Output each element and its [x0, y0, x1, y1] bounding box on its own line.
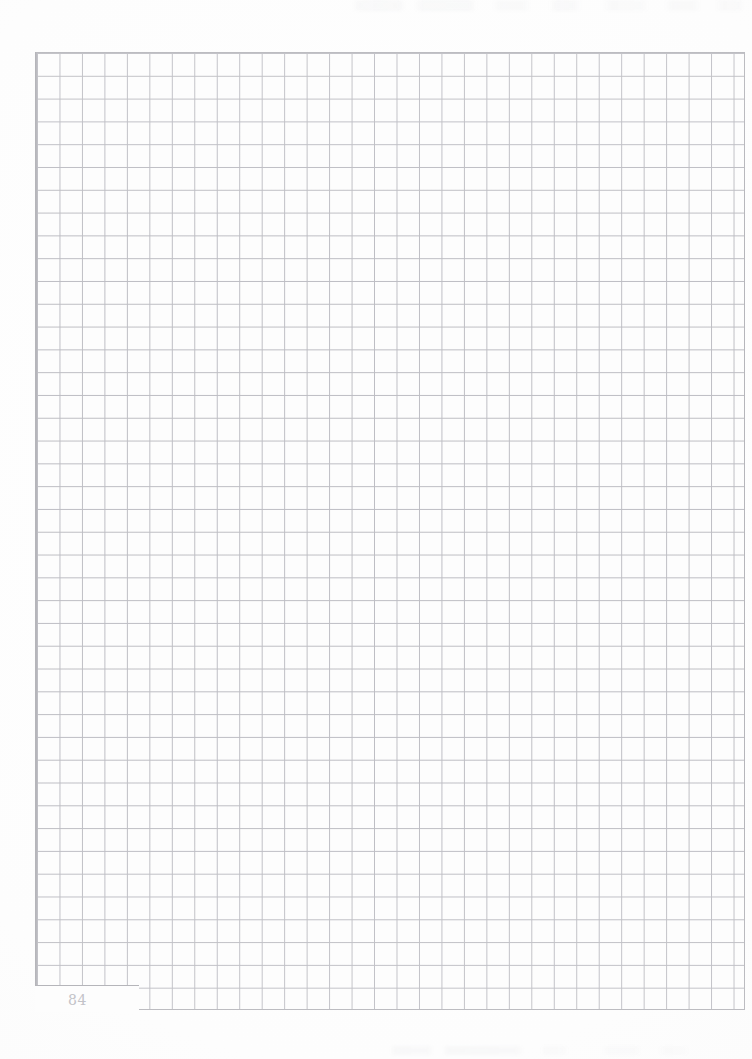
bottom-bleed-through-artifact — [390, 1046, 690, 1055]
graph-paper-grid — [36, 52, 745, 1010]
page-number: 84 — [68, 992, 87, 1008]
notebook-page: 84 — [0, 0, 752, 1059]
page-number-notch — [35, 985, 139, 1012]
top-bleed-through-artifact — [352, 0, 744, 11]
page-number-notch-rule — [35, 985, 139, 986]
grid-left-edge — [35, 52, 36, 986]
